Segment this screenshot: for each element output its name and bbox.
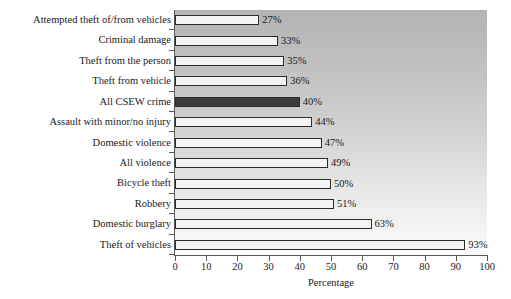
bar-value-label: 47% <box>325 136 344 150</box>
category-label: Domestic burglary <box>1 214 171 234</box>
bar-value-label: 44% <box>315 115 334 129</box>
bar-value-label: 36% <box>290 74 309 88</box>
bar-row: Attempted theft of/from vehicles27% <box>0 10 511 30</box>
bar-value-label: 93% <box>468 238 487 252</box>
bar-row: All violence49% <box>0 153 511 173</box>
category-label: Assault with minor/no injury <box>1 112 171 132</box>
bar-value-label: 35% <box>287 54 306 68</box>
category-label: Theft of vehicles <box>1 235 171 255</box>
bar-value-label: 49% <box>331 156 350 170</box>
category-label: Robbery <box>1 194 171 214</box>
bar-row: Bicycle theft50% <box>0 173 511 193</box>
bar-chart: Attempted theft of/from vehicles27%Crimi… <box>0 0 511 299</box>
bar <box>175 117 312 127</box>
bar <box>175 36 278 46</box>
category-label: Theft from the person <box>1 51 171 71</box>
category-label: Criminal damage <box>1 30 171 50</box>
bar <box>175 138 322 148</box>
bar <box>175 76 287 86</box>
bar-value-label: 27% <box>262 13 281 27</box>
category-label: All violence <box>1 153 171 173</box>
category-label: All CSEW crime <box>1 92 171 112</box>
category-label: Attempted theft of/from vehicles <box>1 10 171 30</box>
bar-value-label: 63% <box>375 217 394 231</box>
category-label: Theft from vehicle <box>1 71 171 91</box>
category-label: Domestic violence <box>1 133 171 153</box>
bar-row: Theft from vehicle36% <box>0 71 511 91</box>
bar-row: All CSEW crime40% <box>0 92 511 112</box>
bar <box>175 158 328 168</box>
bar-row: Theft from the person35% <box>0 51 511 71</box>
y-axis-tick <box>169 254 175 255</box>
bar-value-label: 50% <box>334 177 353 191</box>
bar <box>175 56 284 66</box>
bar-row: Domestic violence47% <box>0 133 511 153</box>
bar-value-label: 33% <box>281 34 300 48</box>
bar <box>175 240 465 250</box>
bar-row: Criminal damage33% <box>0 30 511 50</box>
bar-row: Domestic burglary63% <box>0 214 511 234</box>
bar-row: Theft of vehicles93% <box>0 235 511 255</box>
bar-row: Assault with minor/no injury44% <box>0 112 511 132</box>
category-label: Bicycle theft <box>1 173 171 193</box>
bar-value-label: 51% <box>337 197 356 211</box>
bar <box>175 15 259 25</box>
x-axis-title: Percentage <box>175 276 487 290</box>
bar <box>175 219 372 229</box>
x-axis-tick-label: 100 <box>467 260 507 274</box>
bar-row: Robbery51% <box>0 194 511 214</box>
bar <box>175 179 331 189</box>
bar-value-label: 40% <box>303 95 322 109</box>
bar <box>175 97 300 107</box>
bar <box>175 199 334 209</box>
